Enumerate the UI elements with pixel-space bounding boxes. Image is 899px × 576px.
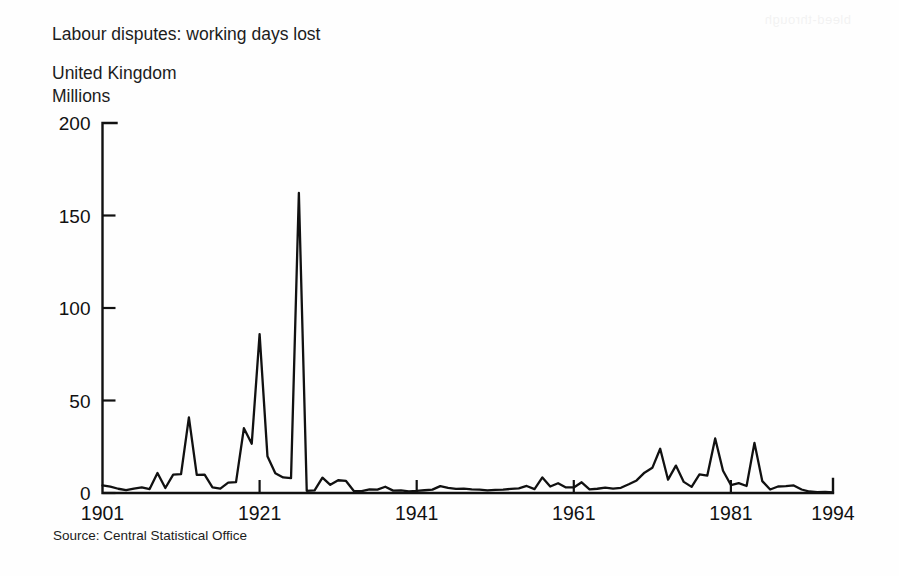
y-tick-label: 100 xyxy=(59,298,91,319)
x-axis-ticks: 190119211941196119811994 xyxy=(81,480,855,524)
source-note: Source: Central Statistical Office xyxy=(53,528,247,543)
chart-page: bleed-through Labour disputes: working d… xyxy=(0,0,899,576)
x-tick-label: 1941 xyxy=(395,502,438,524)
plot-area: 050100150200 190119211941196119811994 xyxy=(0,0,899,576)
x-tick-label: 1961 xyxy=(552,502,595,524)
y-tick-label: 150 xyxy=(59,206,91,227)
line-chart: 050100150200 190119211941196119811994 xyxy=(0,0,899,576)
y-tick-label: 50 xyxy=(69,391,90,412)
axis-frame xyxy=(103,123,834,493)
x-tick-label: 1994 xyxy=(811,502,855,524)
x-tick-label: 1921 xyxy=(238,502,281,524)
y-axis-ticks: 050100150200 xyxy=(59,113,116,504)
y-tick-label: 200 xyxy=(59,113,91,134)
data-series-line xyxy=(103,193,834,493)
x-tick-label: 1901 xyxy=(81,502,124,524)
y-tick-label: 0 xyxy=(80,483,91,504)
x-tick-label: 1981 xyxy=(709,502,752,524)
